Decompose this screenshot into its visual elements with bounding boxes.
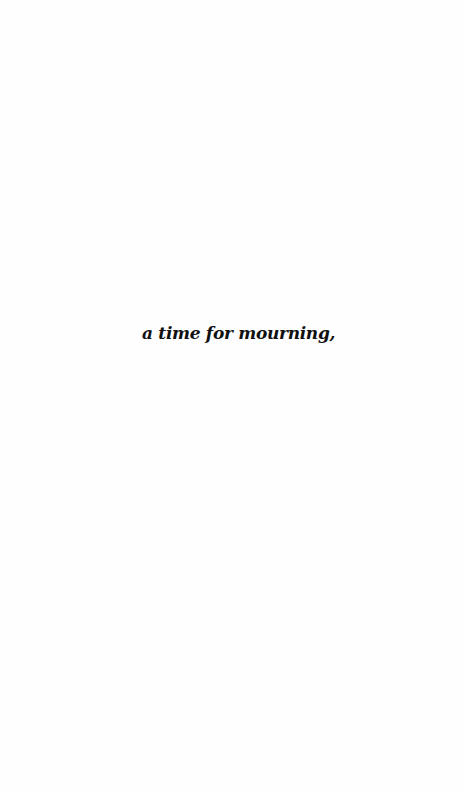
book-page: a time for mourning, bbox=[0, 0, 465, 790]
verse-line: a time for mourning, bbox=[142, 322, 335, 344]
